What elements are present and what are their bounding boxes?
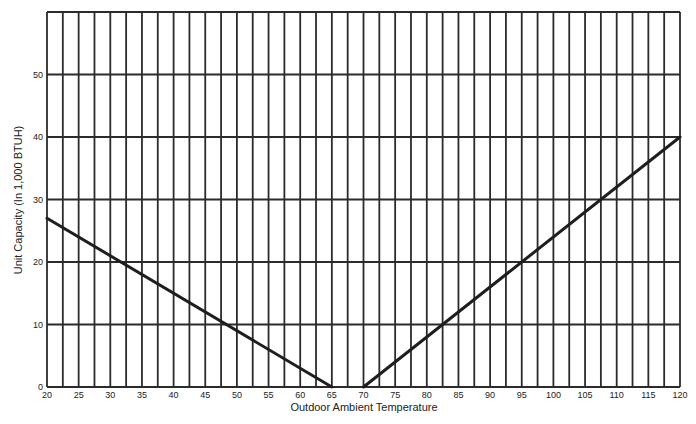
x-tick-label: 65 <box>327 390 337 400</box>
x-tick-label: 100 <box>546 390 561 400</box>
x-axis-title: Outdoor Ambient Temperature <box>290 401 437 413</box>
y-axis-tick-labels: 01020304050 <box>33 70 43 393</box>
y-tick-label: 40 <box>33 132 43 142</box>
capacity-chart: 2025303540455055606570758085909510010511… <box>0 0 696 424</box>
x-axis-tick-labels: 2025303540455055606570758085909510010511… <box>42 390 688 400</box>
x-tick-label: 40 <box>169 390 179 400</box>
y-axis-title: Unit Capacity (In 1,000 BTUH) <box>12 126 24 275</box>
x-tick-label: 75 <box>390 390 400 400</box>
y-tick-label: 0 <box>38 382 43 392</box>
x-tick-label: 85 <box>453 390 463 400</box>
x-tick-label: 35 <box>137 390 147 400</box>
y-tick-label: 20 <box>33 257 43 267</box>
x-tick-label: 70 <box>358 390 368 400</box>
x-tick-label: 90 <box>485 390 495 400</box>
x-tick-label: 60 <box>295 390 305 400</box>
x-tick-label: 20 <box>42 390 52 400</box>
x-tick-label: 80 <box>422 390 432 400</box>
x-tick-label: 30 <box>105 390 115 400</box>
x-tick-label: 25 <box>74 390 84 400</box>
x-tick-label: 105 <box>578 390 593 400</box>
grid <box>47 12 680 387</box>
y-tick-label: 50 <box>33 70 43 80</box>
x-tick-label: 120 <box>672 390 687 400</box>
x-tick-label: 50 <box>232 390 242 400</box>
x-tick-label: 110 <box>610 390 624 400</box>
x-tick-label: 95 <box>517 390 527 400</box>
x-tick-label: 45 <box>200 390 210 400</box>
x-tick-label: 55 <box>264 390 274 400</box>
x-tick-label: 115 <box>641 390 655 400</box>
y-tick-label: 10 <box>33 320 43 330</box>
y-tick-label: 30 <box>33 195 43 205</box>
